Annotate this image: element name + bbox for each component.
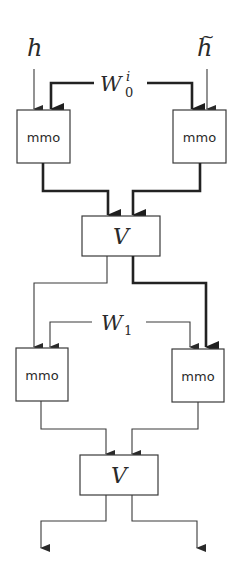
mmo-network-diagram: h h ~ W 0 i mmo mmo V W 1 mm <box>0 0 240 568</box>
layer1-left-to-v-arrow <box>43 163 108 215</box>
w1-left-arrow <box>50 322 92 347</box>
output-left-arrow <box>41 495 106 548</box>
layer1-right-to-v-arrow <box>133 163 200 215</box>
layer2-right-to-v-arrow <box>132 402 198 454</box>
weight-w1-label: W 1 <box>101 311 132 338</box>
mmo-box-layer2-right: mmo <box>172 349 224 402</box>
mmo-box-layer1-right: mmo <box>173 110 226 163</box>
layer2-left-to-v-arrow <box>41 401 106 454</box>
w0-superscript: i <box>126 69 130 84</box>
mmo-label: mmo <box>27 130 60 145</box>
tilde-accent: ~ <box>201 27 214 46</box>
w1-subscript: 1 <box>124 323 132 338</box>
input-h-label: h <box>27 34 42 62</box>
w0-right-arrow <box>147 83 192 109</box>
w0-subscript: 0 <box>125 85 133 100</box>
mmo-label: mmo <box>183 130 216 145</box>
input-h-tilde-label: h ~ <box>197 27 214 62</box>
mmo-label: mmo <box>181 369 214 384</box>
v-label: V <box>111 463 129 488</box>
mmo-box-layer2-left: mmo <box>16 348 68 401</box>
w0-left-arrow <box>51 83 94 109</box>
w1-right-arrow <box>146 322 190 347</box>
v-label: V <box>113 224 131 249</box>
weight-w0-label: W 0 i <box>100 69 133 100</box>
v-box-layer2: V <box>80 455 158 495</box>
output-right-arrow <box>132 495 197 548</box>
w0-base: W <box>100 72 124 96</box>
v-box-layer1: V <box>82 216 160 256</box>
input-h-symbol: h <box>27 34 42 62</box>
v1-right-output-arrow <box>133 256 206 347</box>
mmo-label: mmo <box>25 368 58 383</box>
w1-base: W <box>101 311 125 335</box>
mmo-box-layer1-left: mmo <box>17 110 70 163</box>
v1-left-output-arrow <box>34 256 107 347</box>
